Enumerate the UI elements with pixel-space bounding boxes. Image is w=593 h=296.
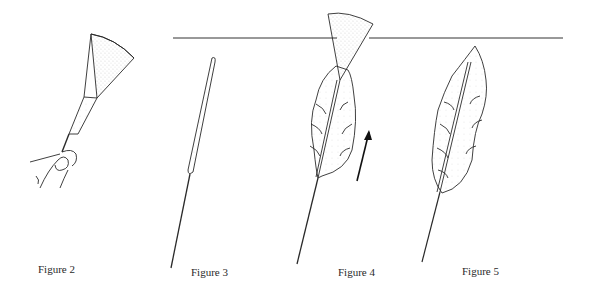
figure-3-drawing	[171, 58, 215, 269]
figure-5-drawing	[422, 46, 487, 262]
figure-3-caption: Figure 3	[191, 266, 228, 278]
figure-2-caption: Figure 2	[38, 263, 75, 275]
illustration-canvas	[0, 0, 593, 296]
upward-arrow-icon	[357, 130, 372, 181]
figure-4-drawing	[297, 13, 373, 264]
figure-2-drawing	[30, 34, 134, 188]
figure-4-caption: Figure 4	[338, 266, 375, 278]
figure-5-caption: Figure 5	[462, 265, 499, 277]
